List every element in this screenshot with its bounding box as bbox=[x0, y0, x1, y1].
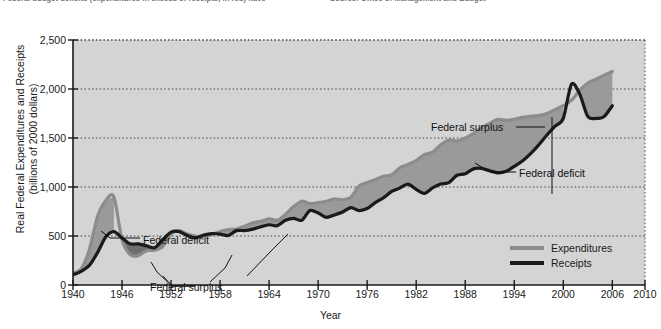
x-tick-label: 1970 bbox=[306, 288, 329, 300]
annotation-federal-deficit-right: Federal deficit bbox=[519, 167, 585, 179]
legend-item-expenditures: Expenditures bbox=[510, 240, 612, 255]
x-tick-label: 1988 bbox=[454, 288, 477, 300]
annotation-federal-surplus-right: Federal surplus bbox=[431, 121, 503, 133]
figure-caption-strip: Federal budget deficits (expenditures in… bbox=[0, 0, 661, 24]
legend-swatch-receipts bbox=[510, 261, 544, 265]
annotation-federal-surplus-left: Federal surplus bbox=[150, 281, 222, 293]
legend-label-expenditures: Expenditures bbox=[551, 242, 612, 254]
x-tick-label: 1994 bbox=[503, 288, 526, 300]
legend-item-receipts: Receipts bbox=[510, 255, 612, 270]
legend-swatch-expenditures bbox=[510, 246, 544, 250]
x-tick-label: 1964 bbox=[257, 288, 280, 300]
caption-left-text: Federal budget deficits (expenditures in… bbox=[3, 0, 266, 3]
x-axis-tick-labels: 1940194619521958196419701976198219881994… bbox=[0, 288, 661, 304]
x-axis-title: Year bbox=[0, 309, 661, 321]
x-tick-label: 1976 bbox=[355, 288, 378, 300]
chart-legend: Expenditures Receipts bbox=[510, 240, 612, 270]
chart-figure: Real Federal Expenditures and Receipts (… bbox=[0, 24, 661, 329]
legend-label-receipts: Receipts bbox=[551, 257, 592, 269]
x-tick-label: 2010 bbox=[633, 288, 656, 300]
x-tick-label: 1940 bbox=[61, 288, 84, 300]
caption-source-text: Source: Office of Management and Budget bbox=[330, 0, 486, 3]
x-tick-label: 1982 bbox=[405, 288, 428, 300]
x-tick-label: 2006 bbox=[601, 288, 624, 300]
x-tick-label: 1946 bbox=[110, 288, 133, 300]
annotation-federal-deficit-left: Federal deficit bbox=[143, 234, 209, 246]
x-tick-label: 2000 bbox=[552, 288, 575, 300]
